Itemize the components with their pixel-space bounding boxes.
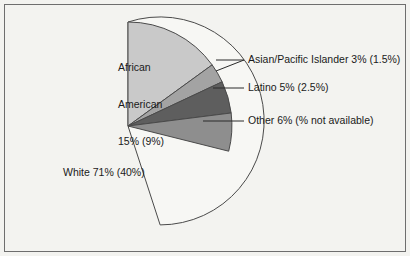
slice-label-white: White 71% (40%) <box>63 166 145 178</box>
chart-figure: African American 15% (9%) White 71% (40%… <box>0 0 410 256</box>
slice-label-african-american-line2: American <box>118 98 164 110</box>
callout-label-asian-pacific-islander: Asian/Pacific Islander 3% (1.5%) <box>248 53 400 65</box>
slice-label-african-american-line1: African <box>118 61 164 73</box>
slice-label-african-american: African American 15% (9%) <box>118 36 164 172</box>
callout-label-other: Other 6% (% not available) <box>248 114 373 126</box>
slice-label-african-american-line3: 15% (9%) <box>118 135 164 147</box>
callout-label-latino: Latino 5% (2.5%) <box>248 81 329 93</box>
pie-chart <box>0 0 410 256</box>
